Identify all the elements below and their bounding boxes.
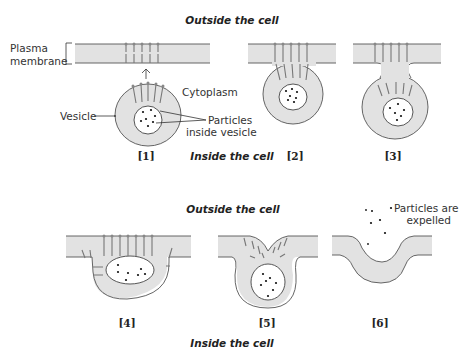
panel-4-number: [4] — [118, 317, 135, 329]
panel-2 — [248, 43, 336, 125]
expelled-particles — [365, 207, 392, 245]
cytoplasm-label: Cytoplasm — [182, 86, 238, 98]
outside-cell-label-row2: Outside the cell — [186, 203, 280, 215]
particles-label-line2: inside vesicle — [186, 126, 257, 138]
panel-4 — [66, 235, 191, 300]
plasma-membrane-label-line1: Plasma — [10, 42, 48, 54]
exocytosis-diagram: Outside the cell Plasma membrane Cytopla… — [0, 0, 464, 363]
panel-1-number: [1] — [137, 150, 154, 162]
up-arrow-icon — [142, 69, 150, 79]
expelled-label-line1: Particles are — [394, 202, 459, 214]
vesicle-label: Vesicle — [60, 110, 96, 122]
panel-3 — [353, 43, 441, 140]
panel-6-number: [6] — [371, 317, 388, 329]
inside-cell-label-row1: Inside the cell — [190, 150, 274, 162]
panel-5 — [218, 236, 318, 308]
outside-cell-label-top: Outside the cell — [185, 14, 279, 26]
panel-5-number: [5] — [258, 317, 275, 329]
plasma-membrane-label-line2: membrane — [10, 55, 67, 67]
vesicle-lumen — [134, 106, 162, 134]
inside-cell-label-row2: Inside the cell — [190, 337, 274, 349]
expelled-label-line2: expelled — [406, 214, 451, 226]
panel-2-number: [2] — [286, 150, 303, 162]
particles-label-line1: Particles — [208, 114, 252, 126]
panel-3-number: [3] — [384, 150, 401, 162]
